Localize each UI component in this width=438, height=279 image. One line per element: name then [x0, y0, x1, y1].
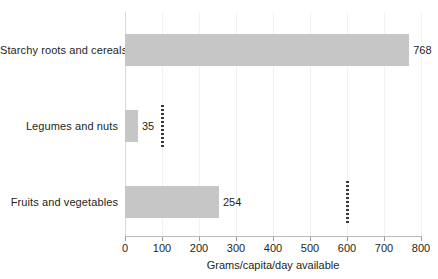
xtick-label-400: 400	[253, 242, 293, 254]
category-label-starchy-roots-and-cereals: Starchy roots and cereals	[0, 34, 118, 66]
xtick-700	[384, 237, 385, 241]
bar-legumes-and-nuts	[125, 110, 138, 142]
xtick-label-100: 100	[142, 242, 182, 254]
xtick-100	[162, 237, 163, 241]
bar-row-legumes-and-nuts: Legumes and nuts 35	[0, 110, 438, 142]
xtick-label-700: 700	[364, 242, 404, 254]
xtick-600	[347, 237, 348, 241]
bar-value-fruits-and-vegetables: 254	[223, 186, 241, 218]
xtick-label-500: 500	[290, 242, 330, 254]
bar-starchy-roots-and-cereals	[125, 34, 409, 66]
reference-marker-fruits-icon	[346, 181, 349, 223]
xtick-800	[421, 237, 422, 241]
category-label-fruits-and-vegetables: Fruits and vegetables	[0, 186, 118, 218]
xtick-label-200: 200	[179, 242, 219, 254]
xtick-label-800: 800	[401, 242, 438, 254]
x-axis-title: Grams/capita/day available	[125, 259, 421, 271]
bar-row-fruits-and-vegetables: Fruits and vegetables 254	[0, 186, 438, 218]
xtick-500	[310, 237, 311, 241]
xtick-300	[236, 237, 237, 241]
bar-fruits-and-vegetables	[125, 186, 219, 218]
bar-chart: Starchy roots and cereals 768 Legumes an…	[0, 0, 438, 279]
xtick-label-300: 300	[216, 242, 256, 254]
xtick-0	[125, 237, 126, 241]
xtick-200	[199, 237, 200, 241]
reference-marker-legumes-icon	[161, 105, 164, 147]
category-label-legumes-and-nuts: Legumes and nuts	[0, 110, 118, 142]
xtick-label-0: 0	[105, 242, 145, 254]
bar-value-starchy-roots-and-cereals: 768	[413, 34, 431, 66]
bar-value-legumes-and-nuts: 35	[142, 110, 154, 142]
xtick-400	[273, 237, 274, 241]
bar-row-starchy-roots-and-cereals: Starchy roots and cereals 768	[0, 34, 438, 66]
xtick-label-600: 600	[327, 242, 367, 254]
